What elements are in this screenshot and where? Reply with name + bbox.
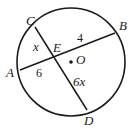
segment-eb-label: 4 [77,31,83,45]
label-b: B [119,18,127,33]
label-d: D [83,113,94,128]
center-point [69,60,73,64]
segment-ed-label: 6x [73,74,86,89]
segment-ae-label: 6 [36,66,42,80]
label-o: O [76,52,86,67]
diagram-canvas: C B A D E O x 4 6 6x [0,0,135,130]
label-a: A [5,65,14,80]
label-c: C [26,13,35,28]
segment-ce-label: x [32,39,39,54]
label-e: E [52,40,61,55]
